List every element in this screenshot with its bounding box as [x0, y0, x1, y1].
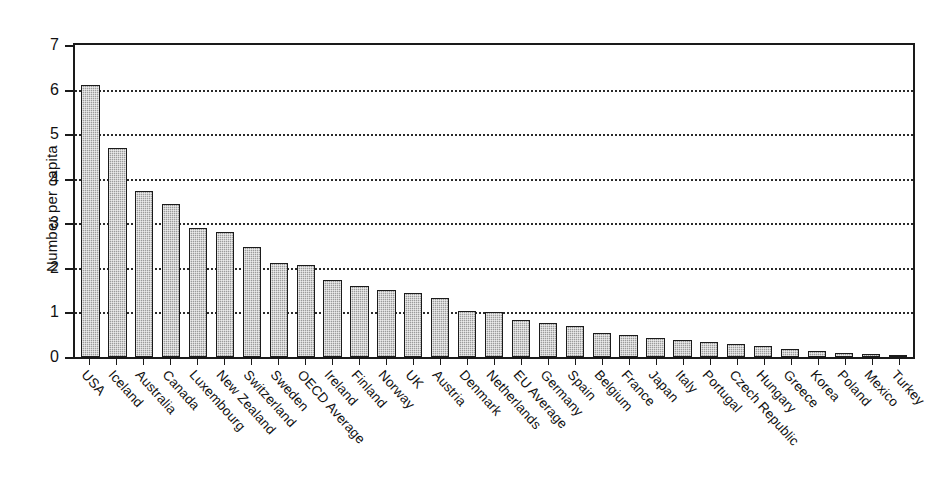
x-tick-slot: [210, 359, 237, 366]
bar-slot: [400, 45, 427, 357]
bar-austria: [431, 298, 449, 357]
bar-australia: [135, 191, 153, 357]
y-tick-label-5: 5: [33, 126, 59, 142]
x-tick-slot: [832, 359, 859, 366]
bar-slot: [481, 45, 508, 357]
bar-slot: [830, 45, 857, 357]
x-tick: [791, 359, 792, 365]
x-label-slot: Poland: [832, 366, 859, 471]
x-tick-slot: [562, 359, 589, 366]
x-tick-slot: [535, 359, 562, 366]
bar-finland: [350, 286, 368, 357]
bar-canada: [162, 204, 180, 357]
x-tick: [818, 359, 819, 365]
x-tick-slot: [399, 359, 426, 366]
x-tick: [224, 359, 225, 365]
bar-new-zealand: [216, 232, 234, 357]
x-label-slot: Switzerland: [237, 366, 264, 471]
x-axis-labels: USAIcelandAustraliaCanadaLuxembourgNew Z…: [73, 366, 915, 471]
x-tick: [251, 359, 252, 365]
x-label-slot: Korea: [805, 366, 832, 471]
x-label-slot: Portugal: [697, 366, 724, 471]
x-tick: [845, 359, 846, 365]
x-tick-slot: [480, 359, 507, 366]
bar-slot: [508, 45, 535, 357]
x-tick-slot: [886, 359, 913, 366]
x-label-slot: Turkey: [886, 366, 913, 471]
x-tick-slot: [318, 359, 345, 366]
bar-switzerland: [243, 247, 261, 357]
x-tick-slot: [616, 359, 643, 366]
bar-slot: [534, 45, 561, 357]
x-tick: [89, 359, 90, 365]
x-tick-slot: [670, 359, 697, 366]
bar-slot: [185, 45, 212, 357]
x-tick-label-turkey: Turkey: [889, 368, 927, 408]
x-tick: [548, 359, 549, 365]
y-tick-7: [65, 45, 75, 47]
y-tick-2: [65, 268, 75, 270]
bar-italy: [673, 340, 691, 357]
x-tick-label-uk: UK: [403, 368, 426, 391]
y-tick-1: [65, 312, 75, 314]
bar-usa: [81, 85, 99, 357]
x-label-slot: Spain: [562, 366, 589, 471]
x-axis-ticks: [73, 359, 915, 366]
x-label-slot: Czech Republic: [724, 366, 751, 471]
bar-hungary: [754, 346, 772, 357]
x-label-slot: Denmark: [453, 366, 480, 471]
bar-czech-republic: [727, 344, 745, 357]
x-label-slot: Luxembourg: [183, 366, 210, 471]
x-tick-slot: [156, 359, 183, 366]
x-label-slot: Mexico: [859, 366, 886, 471]
x-tick-slot: [508, 359, 535, 366]
x-tick: [899, 359, 900, 365]
x-label-slot: New Zealand: [210, 366, 237, 471]
bar-korea: [808, 351, 826, 357]
bar-slot: [588, 45, 615, 357]
bar-slot: [131, 45, 158, 357]
x-tick: [170, 359, 171, 365]
bar-spain: [566, 326, 584, 357]
x-tick: [737, 359, 738, 365]
bar-oecd-average: [297, 265, 315, 357]
bar-slot: [238, 45, 265, 357]
x-tick: [683, 359, 684, 365]
plot-area: 01234567: [73, 43, 915, 359]
x-label-slot: Sweden: [264, 366, 291, 471]
x-label-slot: Netherlands: [480, 366, 507, 471]
x-tick-slot: [291, 359, 318, 366]
bar-ireland: [323, 280, 341, 357]
x-tick-slot: [697, 359, 724, 366]
x-label-slot: Hungary: [751, 366, 778, 471]
x-label-slot: Finland: [345, 366, 372, 471]
x-label-slot: Iceland: [102, 366, 129, 471]
bar-slot: [292, 45, 319, 357]
x-label-slot: Belgium: [589, 366, 616, 471]
x-label-slot: Canada: [156, 366, 183, 471]
bar-slot: [884, 45, 911, 357]
y-axis-title: Number per capita: [43, 84, 60, 334]
x-label-slot: Ireland: [318, 366, 345, 471]
x-tick-slot: [589, 359, 616, 366]
bar-portugal: [700, 342, 718, 357]
bar-denmark: [458, 311, 476, 357]
y-tick-label-2: 2: [33, 260, 59, 276]
bar-france: [619, 335, 637, 357]
x-label-slot: Italy: [670, 366, 697, 471]
bar-slot: [561, 45, 588, 357]
bar-slot: [669, 45, 696, 357]
x-label-slot: Japan: [643, 366, 670, 471]
bar-series: [75, 45, 913, 357]
x-tick: [494, 359, 495, 365]
bar-iceland: [108, 148, 126, 357]
bar-belgium: [593, 333, 611, 358]
y-tick-label-6: 6: [33, 82, 59, 98]
x-tick: [629, 359, 630, 365]
x-tick: [197, 359, 198, 365]
bar-mexico: [862, 354, 880, 357]
x-tick: [305, 359, 306, 365]
x-tick-slot: [805, 359, 832, 366]
y-tick-label-4: 4: [33, 171, 59, 187]
y-tick-label-1: 1: [33, 304, 59, 320]
